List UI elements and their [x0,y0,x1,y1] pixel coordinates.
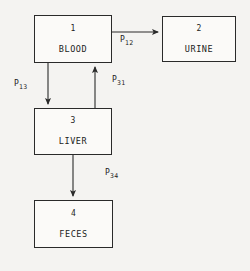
node-liver-id: 3 [70,117,75,125]
node-liver-label: LIVER [59,137,88,146]
edge-label-p34: P34 [105,169,118,179]
edge-label-p13: P13 [14,80,27,90]
node-urine-id: 2 [196,25,201,33]
node-urine-label: URINE [185,45,214,54]
edge-label-p34-sub: 34 [110,172,118,180]
compartment-diagram: 1 BLOOD 2 URINE 3 LIVER 4 FECES P12 P13 … [0,0,250,271]
node-blood-label: BLOOD [59,45,88,54]
node-blood-id: 1 [70,25,75,33]
node-feces-id: 4 [71,210,76,218]
node-blood[interactable]: 1 BLOOD [34,15,112,63]
node-feces-label: FECES [59,230,88,239]
node-liver[interactable]: 3 LIVER [34,108,112,155]
node-feces[interactable]: 4 FECES [34,200,113,248]
edge-label-p12: P12 [120,36,133,46]
node-urine[interactable]: 2 URINE [162,16,236,62]
edge-label-p13-sub: 13 [19,83,27,91]
edge-label-p12-sub: 12 [125,39,133,47]
edge-label-p31-sub: 31 [117,79,125,87]
edge-label-p31: P31 [112,76,125,86]
